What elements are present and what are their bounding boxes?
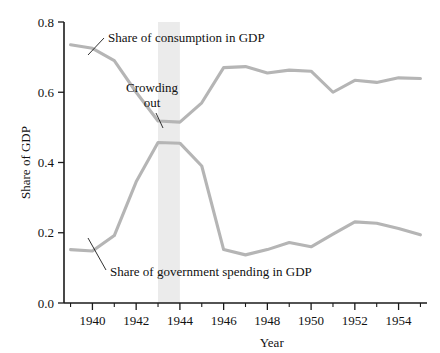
x-tick-label: 1948 xyxy=(254,313,280,328)
y-tick-label: 0.8 xyxy=(38,15,54,30)
y-tick-label: 0.6 xyxy=(38,85,55,100)
shaded-band-rect xyxy=(158,22,180,303)
annotation-crowding-out-label-line2: out xyxy=(144,95,161,110)
annotation-government-spending-label: Share of government spending in GDP xyxy=(110,264,312,279)
crowding-out-band xyxy=(158,22,180,303)
chart-figure: 0.00.20.40.60.81940194219441946194819501… xyxy=(0,0,440,353)
x-tick-label: 1952 xyxy=(342,313,368,328)
government-spending-series-line xyxy=(71,142,421,254)
tick-labels: 0.00.20.40.60.81940194219441946194819501… xyxy=(38,15,412,329)
y-tick-label: 0.2 xyxy=(38,225,54,240)
y-axis-title: Share of GDP xyxy=(18,126,33,199)
line-chart-canvas: 0.00.20.40.60.81940194219441946194819501… xyxy=(0,0,440,353)
x-tick-label: 1950 xyxy=(298,313,324,328)
axis-titles: Share of GDPYear xyxy=(18,126,284,350)
annotation-crowding-out-label-line1: Crowding xyxy=(126,80,179,95)
x-tick-label: 1942 xyxy=(123,313,149,328)
x-tick-label: 1946 xyxy=(211,313,238,328)
x-tick-label: 1944 xyxy=(167,313,194,328)
chart-annotations: Share of consumption in GDPCrowdingoutSh… xyxy=(88,30,312,279)
y-tick-label: 0.4 xyxy=(38,155,55,170)
x-tick-label: 1940 xyxy=(79,313,105,328)
x-axis-title: Year xyxy=(260,335,285,350)
consumption-series-line xyxy=(71,45,421,122)
annotation-consumption-label: Share of consumption in GDP xyxy=(108,30,265,45)
y-tick-label: 0.0 xyxy=(38,296,54,311)
series-lines xyxy=(71,45,421,255)
x-tick-label: 1954 xyxy=(386,313,413,328)
